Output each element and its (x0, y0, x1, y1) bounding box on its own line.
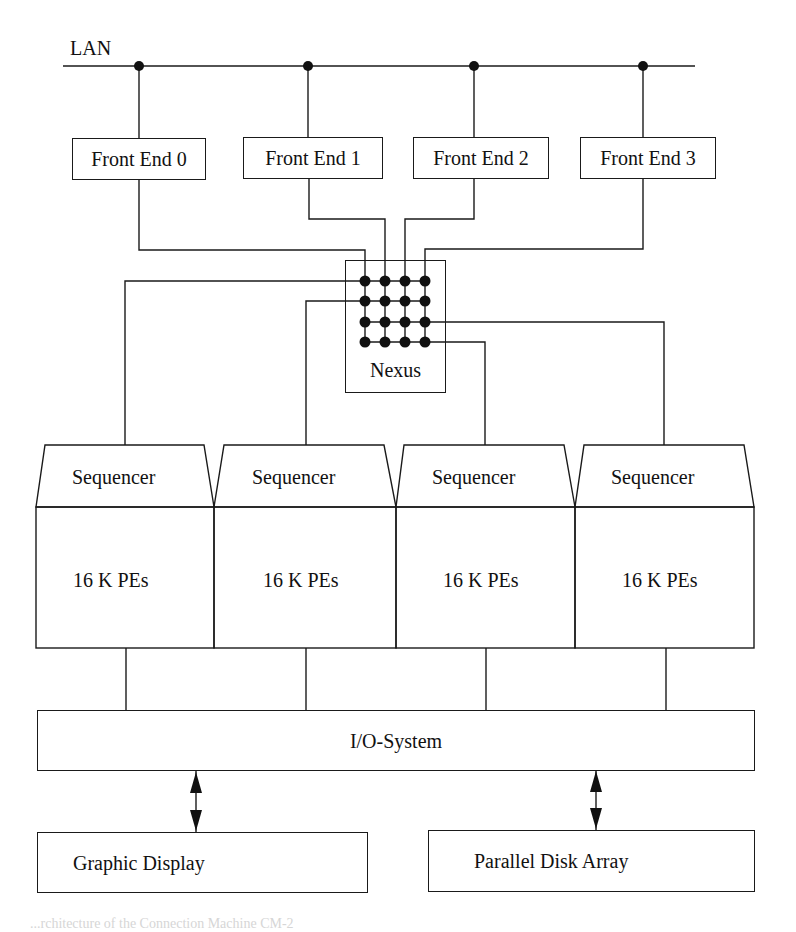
nexus-box: Nexus (345, 260, 446, 393)
sequencer-0-label: Sequencer (72, 467, 155, 487)
front-end-1-box: Front End 1 (243, 137, 383, 179)
nexus-to-seq0-line (125, 281, 365, 445)
front-end-3-box: Front End 3 (580, 137, 716, 179)
lan-label: LAN (70, 38, 111, 58)
graphic-display-box: Graphic Display (37, 832, 368, 893)
figure-caption: ...rchitecture of the Connection Machine… (30, 916, 294, 932)
front-end-3-label: Front End 3 (600, 148, 696, 168)
front-end-2-label: Front End 2 (433, 148, 529, 168)
fe3-to-nexus-line (425, 179, 643, 281)
sequencer-3-label: Sequencer (611, 467, 694, 487)
nexus-label: Nexus (370, 360, 421, 380)
pe-1-label: 16 K PEs (263, 570, 339, 590)
sequencer-2-label: Sequencer (432, 467, 515, 487)
graphic-display-label: Graphic Display (73, 853, 205, 873)
io-system-box: I/O-System (37, 710, 755, 771)
nexus-to-seq3-line (425, 322, 664, 445)
front-end-0-label: Front End 0 (91, 149, 187, 169)
front-end-1-label: Front End 1 (265, 148, 361, 168)
fe0-to-nexus-line (139, 179, 365, 281)
front-end-0-box: Front End 0 (72, 138, 206, 180)
parallel-disk-array-box: Parallel Disk Array (428, 830, 755, 892)
cm2-architecture-diagram: LAN Front End 0 Front End 1 Front End 2 … (0, 0, 796, 932)
pe-2-label: 16 K PEs (443, 570, 519, 590)
front-end-2-box: Front End 2 (413, 137, 549, 179)
pe-3-label: 16 K PEs (622, 570, 698, 590)
pe-0-label: 16 K PEs (73, 570, 149, 590)
parallel-disk-array-label: Parallel Disk Array (474, 851, 628, 871)
io-system-label: I/O-System (350, 731, 442, 751)
sequencer-1-label: Sequencer (252, 467, 335, 487)
